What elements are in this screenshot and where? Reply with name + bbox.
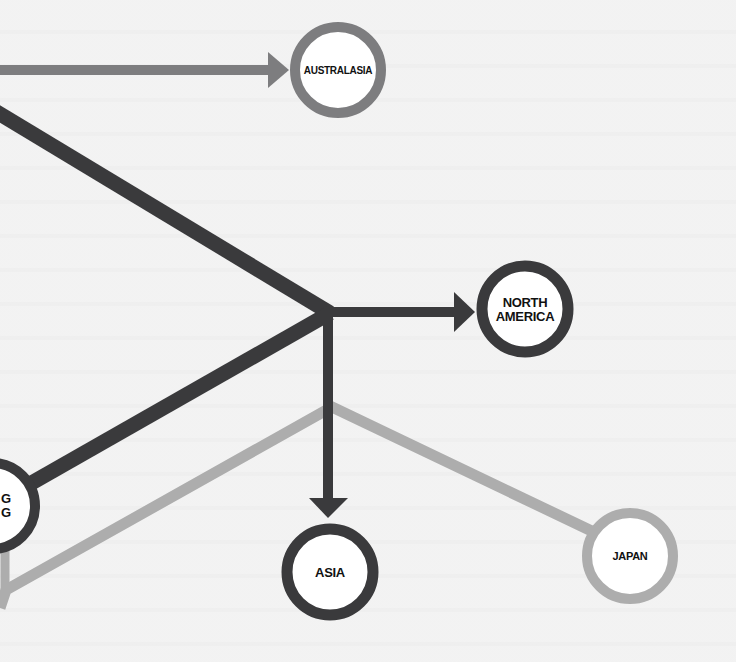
arrowhead-australasia-icon: [268, 52, 289, 88]
north-america-label: NORTH AMERICA: [496, 296, 555, 323]
asia-label: ASIA: [315, 566, 345, 580]
origin-label: G G: [1, 492, 11, 519]
edge-origin-to-junction: [28, 313, 330, 485]
origin-label-line2: G: [1, 506, 11, 520]
north-america-label-line2: AMERICA: [496, 310, 555, 324]
north-america-label-line1: NORTH: [496, 296, 555, 310]
japan-label: JAPAN: [613, 551, 648, 563]
edge-topleft-to-junction: [0, 108, 330, 313]
arrowhead-north-america-icon: [454, 292, 475, 332]
origin-label-line1: G: [1, 492, 11, 506]
australasia-label: AUSTRALASIA: [304, 66, 372, 77]
arrowhead-asia-icon: [309, 498, 348, 518]
